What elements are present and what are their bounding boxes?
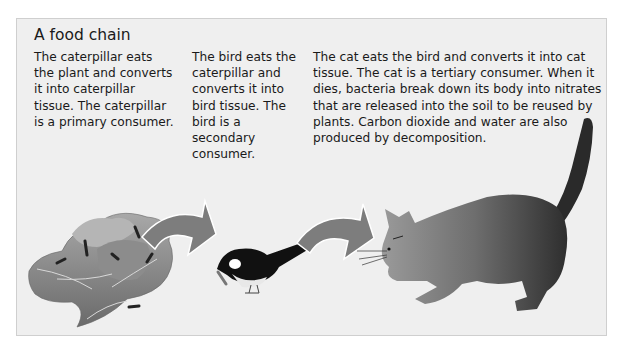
- arrow-cabbage-to-bird-icon: [142, 201, 216, 255]
- cat-icon: [357, 118, 593, 311]
- bird-icon: [217, 241, 309, 293]
- food-chain-panel: A food chain The caterpillar eats the pl…: [16, 18, 607, 336]
- food-chain-illustration: [17, 19, 608, 337]
